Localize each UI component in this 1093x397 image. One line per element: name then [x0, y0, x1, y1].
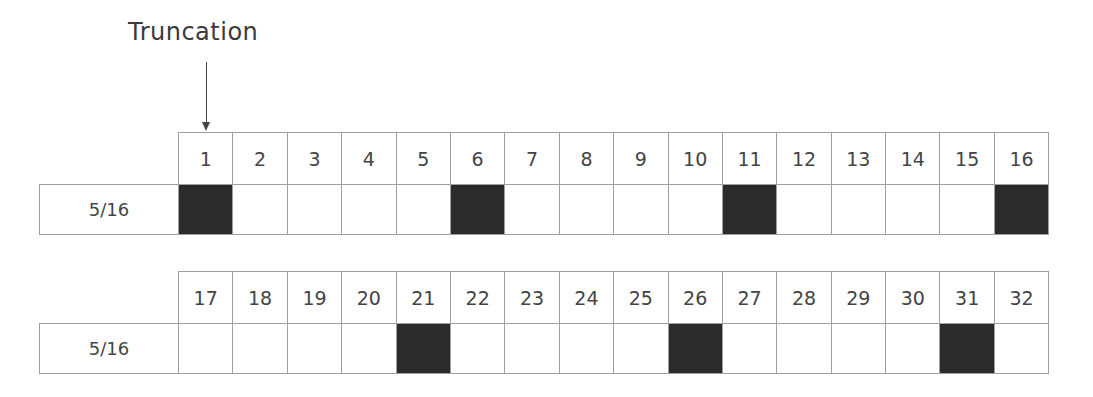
empty-cell	[504, 323, 559, 374]
filled-cell	[722, 184, 777, 235]
position-number: 21	[396, 271, 451, 324]
ratio-label: 5/16	[39, 184, 179, 235]
position-number: 8	[559, 132, 614, 185]
position-number: 13	[831, 132, 886, 185]
empty-cell	[776, 323, 831, 374]
position-number: 16	[994, 132, 1049, 185]
empty-cell	[396, 184, 451, 235]
empty-cell	[232, 184, 287, 235]
position-header-row: 12345678910111213141516	[178, 132, 1049, 185]
truncation-label: Truncation	[128, 18, 258, 46]
filled-cell	[994, 184, 1049, 235]
pattern-row: 5/16	[39, 323, 1049, 374]
empty-cell	[885, 323, 940, 374]
filled-cell	[450, 184, 505, 235]
position-number: 18	[232, 271, 287, 324]
position-number: 20	[341, 271, 396, 324]
empty-cell	[613, 323, 668, 374]
empty-cell	[939, 184, 994, 235]
position-number: 10	[668, 132, 723, 185]
position-number: 22	[450, 271, 505, 324]
empty-cell	[994, 323, 1049, 374]
position-number: 14	[885, 132, 940, 185]
empty-cell	[287, 323, 342, 374]
position-number: 1	[178, 132, 233, 185]
empty-cell	[504, 184, 559, 235]
empty-cell	[831, 323, 886, 374]
position-number: 5	[396, 132, 451, 185]
position-number: 32	[994, 271, 1049, 324]
position-number: 28	[776, 271, 831, 324]
position-number: 12	[776, 132, 831, 185]
position-number: 6	[450, 132, 505, 185]
pattern-row: 5/16	[39, 184, 1049, 235]
position-number: 3	[287, 132, 342, 185]
position-number: 9	[613, 132, 668, 185]
empty-cell	[450, 323, 505, 374]
position-number: 11	[722, 132, 777, 185]
position-number: 29	[831, 271, 886, 324]
filled-cell	[396, 323, 451, 374]
position-number: 15	[939, 132, 994, 185]
empty-cell	[776, 184, 831, 235]
empty-cell	[178, 323, 233, 374]
position-number: 4	[341, 132, 396, 185]
empty-cell	[232, 323, 287, 374]
empty-cell	[613, 184, 668, 235]
position-number: 23	[504, 271, 559, 324]
position-number: 30	[885, 271, 940, 324]
empty-cell	[341, 184, 396, 235]
empty-cell	[559, 323, 614, 374]
ratio-label: 5/16	[39, 323, 179, 374]
empty-cell	[722, 323, 777, 374]
position-number: 19	[287, 271, 342, 324]
position-number: 27	[722, 271, 777, 324]
filled-cell	[668, 323, 723, 374]
empty-cell	[668, 184, 723, 235]
arrow-head-icon	[202, 122, 210, 131]
position-number: 25	[613, 271, 668, 324]
filled-cell	[178, 184, 233, 235]
filled-cell	[939, 323, 994, 374]
position-number: 17	[178, 271, 233, 324]
truncation-arrow	[206, 62, 207, 124]
position-number: 2	[232, 132, 287, 185]
position-number: 24	[559, 271, 614, 324]
position-header-row: 17181920212223242526272829303132	[178, 271, 1049, 324]
empty-cell	[287, 184, 342, 235]
empty-cell	[341, 323, 396, 374]
empty-cell	[831, 184, 886, 235]
empty-cell	[559, 184, 614, 235]
position-number: 7	[504, 132, 559, 185]
position-number: 26	[668, 271, 723, 324]
position-number: 31	[939, 271, 994, 324]
empty-cell	[885, 184, 940, 235]
